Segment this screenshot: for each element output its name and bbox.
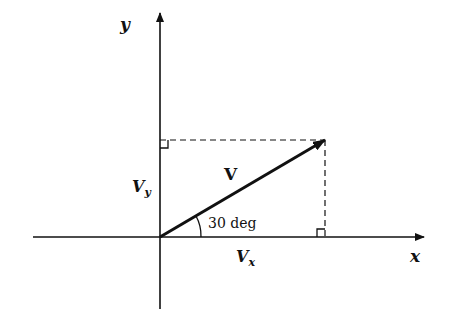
angle-label: 30 deg <box>208 215 257 231</box>
vy-label: Vy <box>132 177 152 199</box>
right-angle-marker-x <box>317 229 325 237</box>
y-axis-label: y <box>119 14 131 34</box>
angle-arc <box>196 216 201 237</box>
vector-label: V <box>223 164 238 184</box>
right-angle-marker-y <box>160 140 168 148</box>
vx-label: Vx <box>236 247 255 269</box>
vector-diagram: y x V 30 deg Vy Vx <box>0 0 462 317</box>
x-axis-label: x <box>409 246 421 266</box>
